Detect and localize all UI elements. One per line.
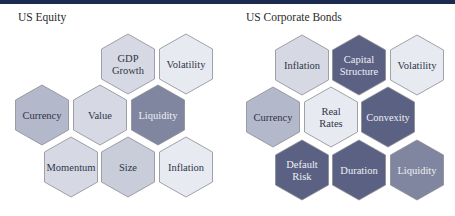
hexagon-label: Risk bbox=[292, 171, 312, 182]
hexagon-label: Rates bbox=[319, 118, 342, 129]
hexagon-convexity: Convexity bbox=[362, 87, 415, 147]
hexagon-label: Momentum bbox=[47, 162, 96, 173]
hexagon-size: Size bbox=[102, 137, 155, 197]
hexagon-liquidity: Liquidity bbox=[132, 85, 185, 145]
hexagon-label: Inflation bbox=[284, 60, 321, 71]
hexagon-label: GDP bbox=[117, 53, 138, 64]
hexagon-value: Value bbox=[74, 85, 127, 145]
hexagon-label: Growth bbox=[112, 65, 145, 76]
hexagon-gdp-growth: GDPGrowth bbox=[102, 34, 155, 94]
hexagon-label: Real bbox=[321, 106, 340, 117]
hexagon-label: Size bbox=[119, 162, 137, 173]
hexagon-factor-diagram: GDPGrowthVolatilityCurrencyValueLiquidit… bbox=[0, 0, 455, 216]
hexagon-liquidity: Liquidity bbox=[391, 140, 444, 200]
hexagon-capital-structure: CapitalStructure bbox=[333, 35, 386, 95]
hexagon-label: Liquidity bbox=[397, 165, 437, 176]
us-equity-hexagon-group: GDPGrowthVolatilityCurrencyValueLiquidit… bbox=[16, 34, 213, 197]
hexagon-label: Capital bbox=[344, 54, 374, 65]
hexagon-label: Volatility bbox=[167, 59, 207, 70]
hexagon-label: Volatility bbox=[398, 60, 438, 71]
hexagon-label: Convexity bbox=[366, 112, 410, 123]
hexagon-label: Liquidity bbox=[138, 110, 178, 121]
hexagon-inflation: Inflation bbox=[160, 137, 213, 197]
hexagon-duration: Duration bbox=[333, 140, 386, 200]
us-corporate-bonds-hexagon-group: InflationCapitalStructureVolatilityCurre… bbox=[247, 35, 444, 200]
hexagon-default-risk: DefaultRisk bbox=[276, 140, 329, 200]
hexagon-label: Structure bbox=[340, 66, 379, 77]
hexagon-label: Inflation bbox=[168, 162, 205, 173]
hexagon-label: Default bbox=[286, 159, 318, 170]
hexagon-label: Currency bbox=[22, 110, 62, 121]
hexagon-volatility: Volatility bbox=[160, 34, 213, 94]
hexagon-momentum: Momentum bbox=[45, 137, 98, 197]
hexagon-inflation: Inflation bbox=[276, 35, 329, 95]
hexagon-currency: Currency bbox=[16, 85, 69, 145]
hexagon-label: Value bbox=[88, 110, 112, 121]
hexagon-volatility: Volatility bbox=[391, 35, 444, 95]
hexagon-real-rates: RealRates bbox=[305, 87, 358, 147]
hexagon-label: Currency bbox=[253, 112, 293, 123]
hexagon-label: Duration bbox=[340, 165, 378, 176]
hexagon-currency: Currency bbox=[247, 87, 300, 147]
